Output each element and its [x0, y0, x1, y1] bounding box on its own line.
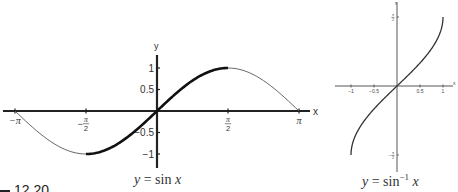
arcsine-x-tick-label: 0.5 [417, 88, 424, 94]
arcsine-y-tick-label: π2 [391, 13, 394, 22]
sine-y-tick-label: 0.5 [140, 84, 154, 95]
svg-text:π: π [392, 151, 394, 155]
svg-text:−: − [78, 119, 83, 129]
sine-x-tick-label: π [296, 115, 302, 126]
arcsine-x-tick-label: −1 [348, 88, 354, 94]
arcsine-y-ticks: π2−π2 [389, 13, 399, 160]
sine-x-tick-label: −π [9, 115, 22, 126]
arcsine-x-axis-label: x [453, 80, 456, 86]
sine-y-axis-label: y [154, 41, 159, 51]
arcsine-chart: x y −1−0.50.51 π2−π2 [335, 0, 456, 172]
arcsine-y-axis-label: y [395, 0, 397, 5]
svg-text:2: 2 [392, 18, 394, 22]
sine-caption: y = sin x [134, 172, 181, 188]
sine-y-tick-label: −1 [143, 149, 155, 160]
figure-label-fragment: 12.20 [0, 182, 49, 192]
svg-text:2: 2 [226, 124, 230, 133]
figure-number: 12.20 [14, 182, 49, 192]
sine-caption-eq: = sin [140, 172, 175, 187]
svg-text:2: 2 [392, 156, 394, 160]
arcsine-x-tick-label: −0.5 [369, 88, 379, 94]
arcsine-caption-sup: −1 [399, 172, 409, 182]
sine-x-tick-label: −π2 [78, 115, 90, 133]
sine-x-tick-label: π2 [225, 115, 231, 133]
svg-text:π: π [84, 115, 88, 124]
svg-text:π: π [392, 13, 394, 17]
svg-text:π: π [226, 115, 230, 124]
sine-x-axis-label: x [313, 106, 318, 117]
sine-caption-arg: x [175, 172, 181, 187]
arcsine-y-tick-label: −π2 [389, 151, 395, 160]
svg-text:2: 2 [84, 124, 88, 133]
arcsine-x-tick-label: 1 [442, 88, 445, 94]
sine-chart: x y −π−π2π2π 10.5−0.5−1 [3, 41, 318, 168]
sine-y-tick-label: 1 [148, 63, 154, 74]
arcsine-caption-eq: = sin [368, 174, 399, 189]
figure-label-mark [0, 190, 10, 192]
arcsine-caption: y = sin−1 x [362, 172, 419, 190]
arcsine-caption-arg: x [409, 174, 419, 189]
